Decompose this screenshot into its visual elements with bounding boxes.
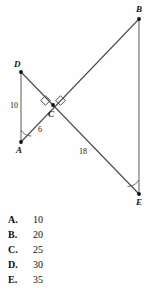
point-label-A: A (16, 146, 22, 155)
problem-page: D A B E C 10 6 18 A. 10 B. 20 C. 25 D. 3… (0, 0, 156, 292)
vertex-B (137, 17, 141, 21)
answer-choice-b[interactable]: B. 20 (0, 227, 156, 242)
point-label-E: E (136, 198, 142, 207)
answer-choices-list: A. 10 B. 20 C. 25 D. 30 E. 35 (0, 212, 156, 292)
choice-value: 30 (33, 257, 43, 272)
geometry-diagram-svg (0, 0, 156, 210)
choice-letter: C. (8, 242, 18, 257)
choice-value: 25 (33, 242, 43, 257)
answer-choice-c[interactable]: C. 25 (0, 242, 156, 257)
vertex-E (137, 192, 141, 196)
choice-letter: E. (8, 272, 17, 287)
segment-AB (21, 19, 139, 142)
geometry-figure: D A B E C 10 6 18 (0, 0, 156, 210)
angle-arcs (21, 130, 139, 187)
answer-choice-d[interactable]: D. 30 (0, 257, 156, 272)
figure-segments (21, 19, 139, 194)
choice-letter: B. (8, 227, 17, 242)
choice-letter: D. (8, 257, 18, 272)
choice-value: 20 (33, 227, 43, 242)
length-label-DA: 10 (10, 102, 18, 110)
point-label-C: C (48, 110, 54, 119)
point-label-D: D (14, 60, 21, 69)
vertex-D (19, 70, 23, 74)
vertex-A (19, 140, 23, 144)
answer-choice-e[interactable]: E. 35 (0, 272, 156, 287)
choice-value: 10 (33, 212, 43, 227)
point-label-B: B (136, 5, 142, 14)
answer-choice-a[interactable]: A. 10 (0, 212, 156, 227)
figure-vertices (19, 17, 141, 196)
vertex-C (51, 103, 55, 107)
choice-value: 35 (33, 272, 43, 287)
choice-letter: A. (8, 212, 18, 227)
length-label-AC: 6 (38, 126, 42, 134)
length-label-CE: 18 (79, 148, 87, 156)
